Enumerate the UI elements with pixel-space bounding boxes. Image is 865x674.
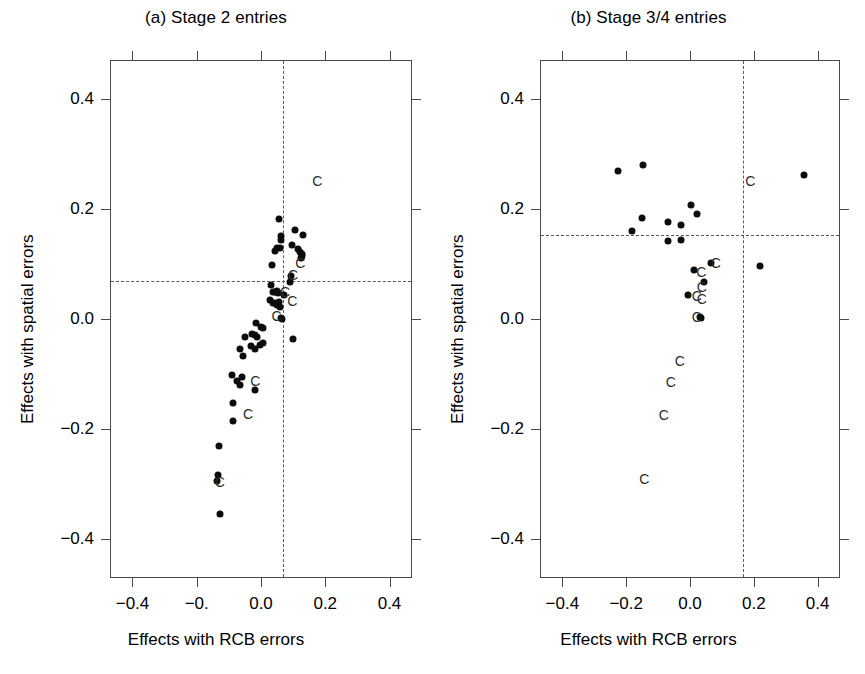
x-axis-label: −0.4 bbox=[546, 594, 580, 614]
panel-stage-2: (a) Stage 2 entries CCCCCCCCC−0.4−0.20.0… bbox=[0, 0, 432, 674]
y-axis-tick bbox=[101, 209, 110, 210]
data-point bbox=[216, 510, 223, 517]
y-axis-tick-right bbox=[840, 99, 849, 100]
y-axis-label: 0.0 bbox=[44, 309, 94, 329]
plot-area-b: CCCCCCCCCCC bbox=[541, 61, 839, 577]
data-point bbox=[684, 292, 691, 299]
data-point bbox=[275, 215, 282, 222]
y-axis-tick-right bbox=[412, 319, 421, 320]
y-axis-tick-right bbox=[840, 539, 849, 540]
x-axis-tick-top bbox=[390, 51, 391, 60]
reference-line-horizontal bbox=[541, 235, 839, 236]
data-point bbox=[756, 262, 763, 269]
y-axis-tick bbox=[531, 99, 540, 100]
x-axis-tick-top bbox=[132, 51, 133, 60]
x-axis-label: −0.2 bbox=[609, 594, 643, 614]
data-point bbox=[801, 171, 808, 178]
plot-area-a: CCCCCCCCC bbox=[111, 61, 411, 577]
y-axis-tick-right bbox=[412, 539, 421, 540]
x-axis-tick-top bbox=[261, 51, 262, 60]
y-axis-label: 0.4 bbox=[44, 89, 94, 109]
data-point bbox=[615, 168, 622, 175]
data-point bbox=[216, 443, 223, 450]
x-axis-label: 0.2 bbox=[313, 594, 337, 614]
data-point bbox=[238, 373, 245, 380]
x-axis-tick bbox=[626, 578, 627, 587]
x-axis-tick-top bbox=[562, 51, 563, 60]
data-point-check: C bbox=[287, 294, 297, 308]
x-axis-title-b: Effects with RCB errors bbox=[432, 630, 865, 650]
x-axis-label: 0.4 bbox=[378, 594, 402, 614]
y-axis-title-a: Effects with spatial errors bbox=[18, 234, 38, 424]
reference-line-vertical bbox=[743, 61, 744, 577]
data-point bbox=[236, 382, 243, 389]
data-point bbox=[639, 214, 646, 221]
x-axis-label: 0.2 bbox=[742, 594, 766, 614]
x-axis-tick bbox=[132, 578, 133, 587]
data-point bbox=[268, 261, 275, 268]
data-point bbox=[260, 324, 267, 331]
x-axis-tick-top bbox=[754, 51, 755, 60]
data-point bbox=[253, 333, 260, 340]
y-axis-tick-right bbox=[840, 429, 849, 430]
data-point bbox=[640, 162, 647, 169]
data-point-check: C bbox=[666, 375, 676, 389]
data-point-check: C bbox=[243, 407, 253, 421]
x-axis-tick-top bbox=[197, 51, 198, 60]
x-axis-label: 0.4 bbox=[806, 594, 830, 614]
data-point-check: C bbox=[692, 310, 702, 324]
data-point-check: C bbox=[288, 268, 298, 282]
data-point bbox=[230, 418, 237, 425]
data-point-check: C bbox=[697, 292, 707, 306]
x-axis-tick bbox=[325, 578, 326, 587]
data-point bbox=[236, 345, 243, 352]
data-point bbox=[252, 346, 259, 353]
y-axis-tick-right bbox=[412, 429, 421, 430]
y-axis-tick bbox=[101, 99, 110, 100]
y-axis-label: 0.0 bbox=[474, 309, 524, 329]
panel-a-title: (a) Stage 2 entries bbox=[0, 8, 432, 28]
panel-b-title: (b) Stage 3/4 entries bbox=[432, 8, 865, 28]
data-point bbox=[292, 227, 299, 234]
plot-frame-b: CCCCCCCCCCC bbox=[540, 60, 840, 578]
y-axis-tick bbox=[531, 429, 540, 430]
y-axis-label: −0.2 bbox=[474, 419, 524, 439]
y-axis-label: 0.2 bbox=[474, 199, 524, 219]
data-point bbox=[678, 236, 685, 243]
y-axis-title-b: Effects with spatial errors bbox=[448, 234, 468, 424]
data-point bbox=[289, 335, 296, 342]
x-axis-tick-top bbox=[325, 51, 326, 60]
y-axis-tick-right bbox=[840, 209, 849, 210]
plot-frame-a: CCCCCCCCC bbox=[110, 60, 412, 578]
y-axis-label: −0.4 bbox=[44, 529, 94, 549]
y-axis-tick bbox=[101, 319, 110, 320]
x-axis-tick bbox=[562, 578, 563, 587]
x-axis-tick bbox=[818, 578, 819, 587]
y-axis-tick-right bbox=[412, 99, 421, 100]
data-point bbox=[628, 228, 635, 235]
reference-line-horizontal bbox=[111, 281, 411, 282]
data-point bbox=[300, 231, 307, 238]
data-point bbox=[230, 400, 237, 407]
data-point-check: C bbox=[675, 354, 685, 368]
data-point bbox=[278, 237, 285, 244]
y-axis-label: 0.4 bbox=[474, 89, 524, 109]
data-point-check: C bbox=[696, 265, 706, 279]
x-axis-title-a: Effects with RCB errors bbox=[0, 630, 432, 650]
y-axis-tick bbox=[101, 539, 110, 540]
data-point bbox=[665, 218, 672, 225]
y-axis-tick-right bbox=[412, 209, 421, 210]
x-axis-tick bbox=[197, 578, 198, 587]
x-axis-label: 0.0 bbox=[249, 594, 273, 614]
x-axis-tick-top bbox=[690, 51, 691, 60]
x-axis-label: 0.0 bbox=[678, 594, 702, 614]
data-point bbox=[665, 238, 672, 245]
data-point-check: C bbox=[250, 374, 260, 388]
x-axis-tick bbox=[390, 578, 391, 587]
x-axis-tick bbox=[261, 578, 262, 587]
data-point bbox=[693, 210, 700, 217]
data-point-check: C bbox=[659, 408, 669, 422]
y-axis-label: −0.4 bbox=[474, 529, 524, 549]
x-axis-label: −0. bbox=[185, 594, 209, 614]
data-point-check: C bbox=[215, 475, 225, 489]
